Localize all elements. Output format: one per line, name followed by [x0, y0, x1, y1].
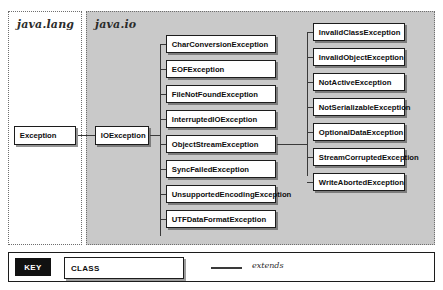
- class-box-writeabortedexception[interactable]: WriteAbortedException: [313, 173, 405, 191]
- class-label: NotSerializableException: [314, 103, 414, 112]
- class-box-syncfailedexception[interactable]: SyncFailedException: [166, 160, 276, 178]
- connector-middle-trunk: [160, 44, 161, 236]
- class-box-optionaldataexception[interactable]: OptionalDataException: [313, 123, 405, 141]
- connector-right-trunk: [307, 32, 308, 176]
- class-box-invalidobjectexception[interactable]: InvalidObjectException: [313, 48, 405, 66]
- connector-exception-to-ioexception: [78, 135, 96, 136]
- key-extends-line-sample: [211, 267, 242, 269]
- class-label: UnsupportedEncodingException: [167, 190, 295, 199]
- class-box-eofexception[interactable]: EOFException: [166, 60, 276, 78]
- package-label-java-lang: java.lang: [17, 18, 74, 31]
- class-box-utfdataformatexception[interactable]: UTFDataFormatException: [166, 210, 276, 228]
- class-label: ObjectStreamException: [167, 140, 262, 149]
- class-label: InvalidObjectException: [314, 53, 408, 62]
- class-box-interruptedioexception[interactable]: InterruptedIOException: [166, 110, 276, 128]
- class-box-filenotfoundexception[interactable]: FileNotFoundException: [166, 85, 276, 103]
- class-box-objectstreamexception[interactable]: ObjectStreamException: [166, 135, 276, 153]
- key-class-sample-box: CLASS: [64, 257, 184, 279]
- class-label: SyncFailedException: [167, 165, 253, 174]
- class-label: CharConversionException: [167, 40, 272, 49]
- class-label: EOFException: [167, 65, 228, 74]
- class-box-ioexception[interactable]: IOException: [95, 126, 149, 145]
- class-label: IOException: [96, 131, 149, 140]
- class-box-notactiveexception[interactable]: NotActiveException: [313, 73, 405, 91]
- class-label: StreamCorruptedException: [314, 153, 423, 162]
- class-label: InterruptedIOException: [167, 115, 261, 124]
- diagram-canvas: java.lang java.io Exception IOException …: [0, 0, 443, 290]
- key-badge-label: KEY: [24, 263, 42, 272]
- key-class-label: CLASS: [65, 264, 100, 273]
- package-label-java-io: java.io: [95, 18, 136, 31]
- class-label: Exception: [15, 131, 60, 140]
- class-label: NotActiveException: [314, 78, 395, 87]
- class-box-notserializableexception[interactable]: NotSerializableException: [313, 98, 405, 116]
- connector-objectstreamexception-stub: [277, 144, 308, 145]
- class-box-exception[interactable]: Exception: [14, 126, 76, 145]
- class-box-charconversionexception[interactable]: CharConversionException: [166, 35, 276, 53]
- key-badge: KEY: [15, 258, 51, 276]
- class-label: FileNotFoundException: [167, 90, 262, 99]
- class-label: UTFDataFormatException: [167, 215, 270, 224]
- key-extends-label: extends: [252, 261, 284, 270]
- class-label: InvalidClassException: [314, 28, 404, 37]
- class-box-streamcorruptedexception[interactable]: StreamCorruptedException: [313, 148, 405, 166]
- class-box-invalidclassexception[interactable]: InvalidClassException: [313, 23, 405, 41]
- class-label: WriteAbortedException: [314, 178, 408, 187]
- class-box-unsupportedencodingexception[interactable]: UnsupportedEncodingException: [166, 185, 276, 203]
- key-legend-bar: KEY CLASS extends: [8, 252, 435, 282]
- class-label: OptionalDataException: [314, 128, 407, 137]
